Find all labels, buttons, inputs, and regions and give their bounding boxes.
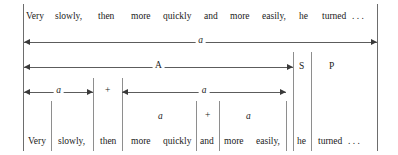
arrow-head-right-icon bbox=[87, 89, 93, 95]
span-arrow-a-full: a bbox=[24, 38, 377, 47]
top-word-0: Very bbox=[26, 12, 44, 22]
sentence-analysis-figure: Veryslowly,thenmorequicklyandmoreeasily,… bbox=[0, 0, 398, 155]
top-word-5: and bbox=[204, 12, 218, 22]
bottom-word-3: more bbox=[131, 137, 151, 147]
span-arrow-a-left: a bbox=[24, 88, 93, 97]
top-word-6: more bbox=[230, 12, 250, 22]
bottom-word-2: then bbox=[100, 137, 116, 147]
constituent-label-4: + bbox=[205, 111, 210, 121]
top-word-7: easily, bbox=[262, 12, 286, 22]
vertical-rule-div-s-end bbox=[311, 52, 312, 151]
constituent-label-3: a bbox=[158, 112, 163, 122]
span-arrow-A-span: A bbox=[24, 63, 293, 72]
span-arrow-a-right: a bbox=[122, 88, 286, 97]
top-word-4: quickly bbox=[163, 12, 192, 22]
constituent-label-2: + bbox=[105, 86, 110, 96]
top-word-10: . . . bbox=[352, 12, 364, 22]
arrow-head-left-icon bbox=[24, 64, 30, 70]
bottom-word-5: and bbox=[200, 137, 214, 147]
bottom-word-7: easily, bbox=[256, 137, 280, 147]
top-word-1: slowly, bbox=[55, 12, 82, 22]
top-word-2: then bbox=[98, 12, 114, 22]
arrow-head-right-icon bbox=[280, 89, 286, 95]
constituent-label-1: P bbox=[329, 62, 334, 72]
arrow-head-left-icon bbox=[24, 39, 30, 45]
constituent-label-5: a bbox=[246, 112, 251, 122]
arrow-head-left-icon bbox=[122, 89, 128, 95]
bottom-word-6: more bbox=[224, 137, 244, 147]
arrow-label: A bbox=[152, 61, 165, 70]
vertical-rule-border-right bbox=[377, 4, 378, 151]
vertical-rule-div-easily bbox=[286, 101, 287, 151]
arrow-head-right-icon bbox=[371, 39, 377, 45]
constituent-label-0: S bbox=[299, 62, 304, 72]
bottom-word-9: turned bbox=[318, 137, 342, 147]
bottom-word-10: . . . bbox=[348, 137, 360, 147]
top-word-8: he bbox=[299, 12, 308, 22]
arrow-label: a bbox=[199, 86, 210, 95]
vertical-rule-div-s-start bbox=[293, 52, 294, 151]
top-word-9: turned bbox=[322, 12, 346, 22]
vertical-rule-border-left bbox=[23, 4, 24, 151]
vertical-rule-div-very bbox=[51, 101, 52, 151]
arrow-head-right-icon bbox=[287, 64, 293, 70]
vertical-rule-div-quickly bbox=[196, 101, 197, 151]
vertical-rule-div-and bbox=[219, 101, 220, 151]
bottom-word-1: slowly, bbox=[58, 137, 85, 147]
bottom-word-0: Very bbox=[28, 137, 46, 147]
bottom-word-8: he bbox=[297, 137, 306, 147]
arrow-label: a bbox=[195, 36, 206, 45]
arrow-head-left-icon bbox=[24, 89, 30, 95]
arrow-label: a bbox=[53, 86, 64, 95]
bottom-word-4: quickly bbox=[163, 137, 192, 147]
top-word-3: more bbox=[131, 12, 151, 22]
vertical-rule-div-slowly bbox=[93, 78, 94, 151]
